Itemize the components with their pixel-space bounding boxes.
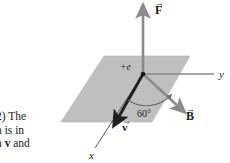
caption-line-1: 2) The (0, 110, 52, 124)
caption-line-3: n v and (0, 137, 52, 151)
velocity-label-text: v (122, 121, 128, 133)
charge-origin-dot (141, 72, 146, 77)
figure-screenshot: +e 60° → F → B → v y x 2) The n is in n … (0, 0, 230, 163)
force-label-text: F (155, 3, 162, 17)
velocity-label: → v (122, 114, 133, 133)
caption-line-2: n is in (0, 124, 52, 138)
field-label-text: B (186, 109, 194, 123)
caption-text-block: 2) The n is in n v and (0, 110, 52, 151)
caption-line-3-suffix: and (10, 137, 29, 149)
charge-label: +e (120, 62, 131, 72)
angle-label: 60° (137, 108, 151, 119)
axis-y-label: y (218, 68, 224, 80)
force-label: → F (155, 0, 167, 17)
field-label: → B (186, 101, 198, 123)
axis-x-label: x (88, 149, 94, 161)
